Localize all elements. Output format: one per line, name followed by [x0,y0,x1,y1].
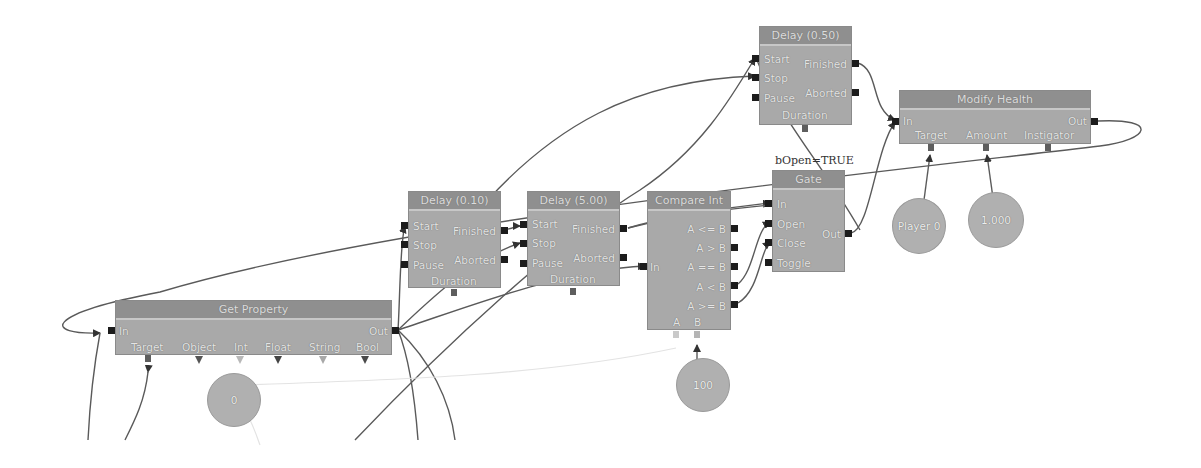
input-label-in: In [903,115,913,127]
port-out[interactable] [392,327,399,334]
port-stop[interactable] [520,240,527,247]
var-label-duration: Duration [550,273,596,285]
port-finished[interactable] [501,227,508,234]
var-label-string: String [309,341,340,353]
port-le[interactable] [731,225,738,232]
port-finished[interactable] [852,60,859,67]
var-label-b: B [694,316,701,328]
port-aborted[interactable] [620,254,627,261]
port-in[interactable] [640,263,647,270]
get-property-node[interactable]: Get Property In Out Target Object Int Fl… [115,300,392,355]
input-label-start: Start [532,218,558,230]
port-pause[interactable] [401,261,408,268]
node-title: Modify Health [900,91,1090,110]
gate-comment: bOpen=TRUE [775,154,854,167]
node-title: Get Property [116,301,391,320]
port-target[interactable] [145,355,151,362]
port-stop[interactable] [401,241,408,248]
port-object-icon[interactable] [195,356,203,364]
port-in[interactable] [892,118,899,125]
port-eq[interactable] [731,263,738,270]
int-variable-hundred[interactable]: 100 [676,358,730,412]
modify-health-node[interactable]: Modify Health In Out Target Amount Insti… [899,90,1091,144]
compare-int-node[interactable]: Compare Int A <= B A > B A == B A < B A … [647,191,731,330]
int-variable-zero[interactable]: 0 [207,373,261,427]
port-a[interactable] [673,331,679,338]
input-label-pause: Pause [413,259,444,271]
output-label-gt: A > B [696,242,726,254]
input-label-start: Start [413,220,439,232]
port-in[interactable] [108,327,115,334]
port-aborted[interactable] [852,89,859,96]
float-variable-amount[interactable]: 1.000 [968,192,1024,248]
output-label-out: Out [369,325,388,337]
delay-500-node[interactable]: Delay (5.00) Start Stop Pause Finished A… [527,191,620,286]
variable-value: Player 0 [898,220,941,232]
port-pause[interactable] [520,260,527,267]
output-label-le: A <= B [687,223,726,235]
port-start[interactable] [520,221,527,228]
port-start[interactable] [752,55,759,62]
output-label-aborted: Aborted [573,252,615,264]
port-amount[interactable] [983,144,989,151]
output-label-aborted: Aborted [454,254,496,266]
port-out[interactable] [845,230,852,237]
port-bool-icon[interactable] [361,356,369,364]
output-label-finished: Finished [572,223,615,235]
variable-value: 0 [231,394,238,406]
var-label-float: Float [265,341,291,353]
port-start[interactable] [401,222,408,229]
port-out[interactable] [1091,118,1098,125]
var-label-target: Target [131,341,163,353]
input-label-toggle: Toggle [777,257,811,269]
input-label-stop: Stop [413,239,437,251]
port-close[interactable] [765,239,772,246]
input-label-in: In [119,325,129,337]
output-label-eq: A == B [687,261,726,273]
port-duration[interactable] [802,125,808,132]
output-label-finished: Finished [453,225,496,237]
port-lt[interactable] [731,282,738,289]
player-variable[interactable]: Player 0 [892,198,946,254]
gate-node[interactable]: Gate In Open Close Toggle Out [772,170,845,272]
port-instigator[interactable] [1045,144,1051,151]
var-label-int: Int [234,341,248,353]
port-string-icon[interactable] [319,356,327,364]
node-title: Compare Int [648,192,730,211]
port-toggle[interactable] [765,259,772,266]
input-label-stop: Stop [764,72,788,84]
port-b[interactable] [694,331,700,338]
port-duration[interactable] [570,288,576,295]
delay-050-node[interactable]: Delay (0.50) Start Stop Pause Finished A… [759,26,852,125]
variable-value: 100 [693,379,713,391]
input-label-pause: Pause [532,257,563,269]
node-title: Delay (5.00) [528,192,619,211]
port-stop[interactable] [752,74,759,81]
output-label-out: Out [1068,115,1087,127]
node-title: Gate [773,171,844,190]
variable-value: 1.000 [981,214,1011,226]
output-label-ge: A >= B [687,300,726,312]
input-label-open: Open [777,218,805,230]
var-label-bool: Bool [356,341,379,353]
port-open[interactable] [765,220,772,227]
port-aborted[interactable] [501,256,508,263]
port-float-icon[interactable] [274,356,282,364]
delay-010-node[interactable]: Delay (0.10) Start Stop Pause Finished A… [408,191,501,288]
output-label-out: Out [822,228,841,240]
var-label-duration: Duration [431,275,477,287]
port-target[interactable] [928,144,934,151]
port-gt[interactable] [731,244,738,251]
port-finished[interactable] [620,225,627,232]
port-ge[interactable] [731,301,738,308]
kismet-canvas[interactable]: Delay (0.50) Start Stop Pause Finished A… [0,0,1201,468]
var-label-target: Target [915,129,947,141]
var-label-a: A [673,316,680,328]
port-duration[interactable] [451,289,457,296]
output-label-lt: A < B [696,281,726,293]
input-label-start: Start [764,53,790,65]
port-int-icon[interactable] [236,356,244,364]
port-pause[interactable] [752,94,759,101]
port-in[interactable] [765,200,772,207]
var-label-duration: Duration [782,109,828,121]
